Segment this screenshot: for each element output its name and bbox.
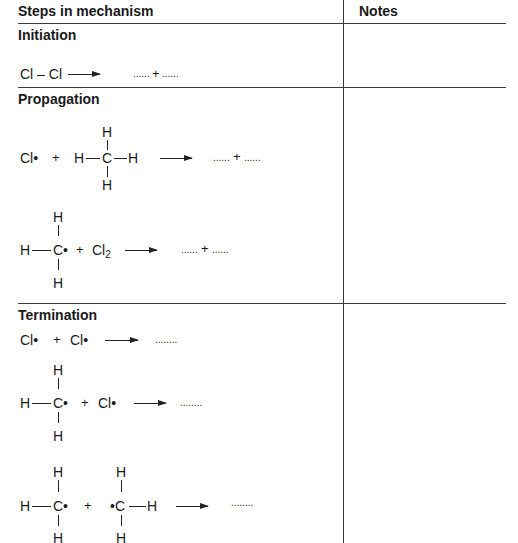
- bond: [86, 158, 100, 159]
- atom-h-left: H: [20, 242, 30, 258]
- product-blank: ........: [155, 334, 177, 345]
- product-blank: ......: [133, 68, 150, 79]
- notes-column-header: Notes: [359, 3, 398, 19]
- atom-c-radical: C•: [53, 242, 68, 258]
- chlorine-radical: Cl•: [70, 332, 88, 348]
- product-blank: ......: [244, 152, 261, 163]
- reaction-arrow-icon: [68, 74, 100, 75]
- atom-h-left: H: [20, 395, 30, 411]
- subscript-2: 2: [105, 249, 111, 260]
- atom-h-top: H: [102, 124, 112, 140]
- section-title-initiation: Initiation: [18, 27, 76, 43]
- atom-h-top: H: [116, 464, 126, 480]
- atom-h-left: H: [74, 150, 84, 166]
- plus-sign: +: [52, 150, 60, 165]
- plus-sign: +: [152, 66, 160, 81]
- bond: [58, 412, 59, 423]
- reaction-arrow-icon: [160, 158, 192, 159]
- bond: [58, 515, 59, 526]
- atom-c: C: [102, 150, 112, 166]
- cl-symbol: Cl: [92, 242, 105, 258]
- product-blank: ........: [231, 497, 253, 508]
- product-blank: ......: [213, 152, 230, 163]
- bond: [32, 250, 51, 251]
- bond: [121, 515, 122, 526]
- bond: [58, 480, 59, 492]
- atom-h-right: H: [147, 498, 157, 514]
- atom-h-top: H: [53, 362, 63, 378]
- plus-sign: +: [76, 242, 84, 257]
- chlorine-radical: Cl•: [20, 332, 38, 348]
- atom-h-right: H: [128, 150, 138, 166]
- atom-h-top: H: [53, 209, 63, 225]
- atom-c-radical: •C: [110, 498, 125, 514]
- product-blank: ........: [180, 397, 202, 408]
- plus-sign: +: [84, 498, 92, 513]
- bond: [58, 259, 59, 270]
- atom-h-bottom: H: [53, 530, 63, 543]
- reaction-arrow-icon: [125, 250, 157, 251]
- bond: [32, 506, 51, 507]
- bond: [129, 506, 146, 507]
- reaction-arrow-icon: [176, 506, 208, 507]
- bond: [114, 158, 127, 159]
- plus-sign: +: [53, 332, 61, 347]
- bond: [32, 403, 51, 404]
- product-blank: ......: [162, 68, 179, 79]
- plus-sign: +: [201, 241, 209, 256]
- atom-c-radical: C•: [53, 395, 68, 411]
- steps-column-header: Steps in mechanism: [18, 3, 153, 19]
- plus-sign: +: [81, 395, 89, 410]
- section-title-termination: Termination: [18, 307, 97, 323]
- atom-h-bottom: H: [53, 428, 63, 444]
- section-title-propagation: Propagation: [18, 91, 100, 107]
- atom-c-radical: C•: [53, 498, 68, 514]
- reaction-arrow-icon: [105, 340, 138, 341]
- atom-h-bottom: H: [53, 275, 63, 291]
- bond: [107, 166, 108, 177]
- atom-h-bottom: H: [116, 530, 126, 543]
- chlorine-radical: Cl•: [98, 395, 116, 411]
- atom-h-bottom: H: [102, 177, 112, 193]
- product-blank: ......: [181, 244, 198, 255]
- notes-column[interactable]: [344, 24, 506, 543]
- product-blank: ......: [212, 244, 229, 255]
- atom-h-top: H: [53, 464, 63, 480]
- bond: [58, 225, 59, 236]
- bond: [121, 480, 122, 492]
- reaction-arrow-icon: [134, 403, 166, 404]
- bond: [58, 378, 59, 389]
- plus-sign: +: [233, 149, 241, 164]
- atom-h-left: H: [20, 498, 30, 514]
- chlorine-radical: Cl•: [20, 150, 38, 166]
- bond: [107, 140, 108, 150]
- reactant-cl2: Cl – Cl: [20, 66, 62, 82]
- chlorine-molecule: Cl2: [92, 242, 111, 263]
